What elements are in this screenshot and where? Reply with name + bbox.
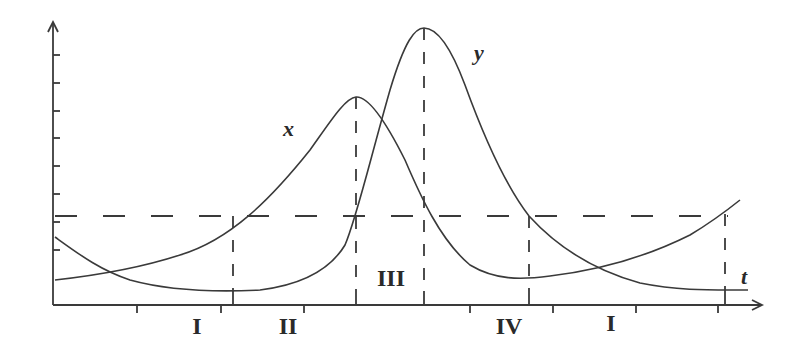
region-label-1: I (192, 313, 201, 339)
time-axis-label: t (741, 264, 748, 289)
lotka-volterra-diagram: x y t IIIIIIIVI (0, 0, 796, 352)
curve-y-predator (55, 28, 748, 291)
region-label-5: I (606, 310, 615, 336)
diagram-canvas: x y t IIIIIIIVI (0, 0, 796, 352)
curve-x-label: x (282, 116, 294, 141)
region-label-3: III (377, 265, 405, 291)
curve-y-label: y (471, 40, 484, 65)
region-label-4: IV (496, 313, 523, 339)
dashed-guides (55, 28, 728, 291)
curve-x-prey (55, 97, 740, 280)
region-label-2: II (279, 313, 298, 339)
